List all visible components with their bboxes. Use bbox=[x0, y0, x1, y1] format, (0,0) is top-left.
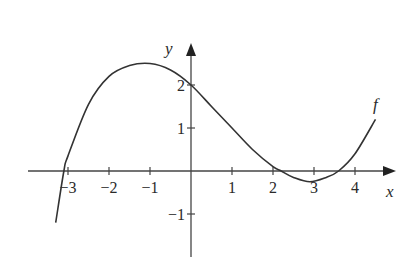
y-axis-arrow-icon bbox=[186, 43, 196, 56]
y-tick-label: −1 bbox=[168, 206, 185, 223]
y-tick-label: 1 bbox=[177, 120, 185, 137]
x-tick-label: −2 bbox=[100, 179, 117, 196]
function-graph: −3−2−11234 21−1 x y f bbox=[0, 0, 420, 259]
x-tick-label: 4 bbox=[351, 179, 359, 196]
x-tick-label: 1 bbox=[228, 179, 236, 196]
x-tick-label: 2 bbox=[269, 179, 277, 196]
y-axis-label: y bbox=[163, 39, 173, 58]
y-axis bbox=[186, 43, 196, 257]
x-axis bbox=[28, 166, 396, 176]
x-axis-label: x bbox=[385, 182, 394, 201]
curve-label-f: f bbox=[373, 95, 380, 114]
x-tick-label: −1 bbox=[141, 179, 158, 196]
x-axis-arrow-icon bbox=[383, 166, 396, 176]
function-f-curve bbox=[56, 63, 376, 222]
